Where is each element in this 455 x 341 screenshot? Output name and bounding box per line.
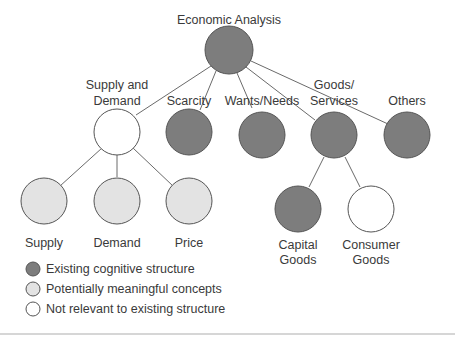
edge-supply-demand-supply — [60, 148, 102, 186]
legend: Existing cognitive structure Potentially… — [26, 262, 225, 316]
demand-label: Demand — [93, 236, 140, 250]
legend-potential-swatch — [26, 282, 40, 296]
legend-not-relevant-swatch — [26, 302, 40, 316]
node-demand — [94, 178, 140, 224]
edge-goods-services-capital — [309, 157, 324, 187]
node-others — [384, 112, 430, 158]
node-supply-and-demand — [94, 109, 140, 155]
supply-demand-label-line1: Supply and — [86, 78, 149, 92]
bottom-divider — [0, 333, 455, 335]
node-economic-analysis — [205, 26, 253, 74]
consumer-goods-label-line1: Consumer — [342, 238, 400, 252]
node-capital-goods — [275, 186, 321, 232]
price-label: Price — [175, 236, 204, 250]
node-goods-services — [311, 112, 357, 158]
node-scarcity — [166, 109, 212, 155]
node-wants-needs — [239, 112, 285, 158]
legend-not-relevant-label: Not relevant to existing structure — [46, 302, 225, 316]
root-label: Economic Analysis — [177, 13, 281, 27]
edge-supply-demand-price — [133, 148, 173, 186]
node-consumer-goods — [348, 186, 394, 232]
wants-needs-label: Wants/Needs — [225, 94, 300, 108]
goods-services-label-line1: Goods/ — [314, 78, 355, 92]
legend-potential-label: Potentially meaningful concepts — [46, 282, 222, 296]
concept-map: Economic Analysis Supply and Demand Scar… — [0, 0, 455, 341]
capital-goods-label-line1: Capital — [279, 238, 318, 252]
capital-goods-label-line2: Goods — [280, 253, 317, 267]
node-price — [166, 178, 212, 224]
consumer-goods-label-line2: Goods — [353, 253, 390, 267]
scarcity-label: Scarcity — [167, 94, 212, 108]
others-label: Others — [388, 94, 426, 108]
legend-existing-label: Existing cognitive structure — [46, 262, 195, 276]
edge-goods-services-consumer — [345, 157, 360, 187]
node-supply — [21, 178, 67, 224]
goods-services-label-line2: Services — [310, 94, 358, 108]
supply-label: Supply — [25, 236, 64, 250]
legend-existing-swatch — [26, 262, 40, 276]
supply-demand-label-line2: Demand — [93, 94, 140, 108]
